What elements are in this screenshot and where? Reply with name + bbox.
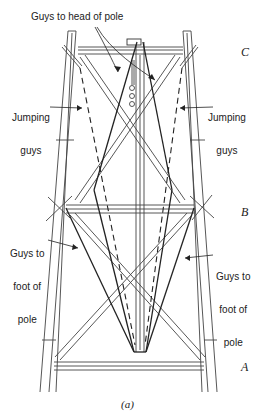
callout-text-line: guys bbox=[208, 145, 246, 156]
callout-text-line: pole bbox=[10, 314, 44, 325]
top-cross-beam bbox=[78, 47, 183, 54]
level-label-a: A bbox=[241, 360, 248, 375]
tower-guying-diagram: Guys to head of pole Jumping guys Jumpin… bbox=[0, 0, 265, 420]
callout-arrowheads bbox=[72, 66, 190, 261]
upper-x-bracing bbox=[75, 55, 185, 203]
callout-text-line: Guys to bbox=[216, 271, 250, 282]
callout-jumping-guys-right: Jumping guys bbox=[208, 90, 246, 178]
gin-pole bbox=[127, 39, 144, 352]
callout-text-line: pole bbox=[216, 337, 250, 348]
callout-text-line: foot of bbox=[10, 281, 44, 292]
figure-caption: (a) bbox=[121, 398, 134, 410]
callout-text-line: foot of bbox=[216, 304, 250, 315]
left-tower-leg bbox=[40, 31, 76, 392]
level-label-b: B bbox=[241, 205, 248, 220]
callout-guys-to-head-of-pole: Guys to head of pole bbox=[31, 11, 123, 22]
bottom-cross-beam bbox=[54, 362, 204, 370]
callout-text-line: guys bbox=[12, 145, 50, 156]
callout-text-line: Guys to bbox=[10, 248, 44, 259]
callout-jumping-guys-left: Jumping guys bbox=[12, 90, 50, 178]
callout-text-line: Jumping bbox=[208, 112, 246, 123]
level-label-c: C bbox=[241, 45, 249, 60]
callout-text-line: Jumping bbox=[12, 112, 50, 123]
callout-guys-to-foot-left: Guys to foot of pole bbox=[10, 226, 44, 347]
middle-cross-beam bbox=[66, 205, 194, 213]
jumping-guys-dashed bbox=[80, 68, 182, 345]
callout-guys-to-foot-right: Guys to foot of pole bbox=[216, 249, 250, 370]
